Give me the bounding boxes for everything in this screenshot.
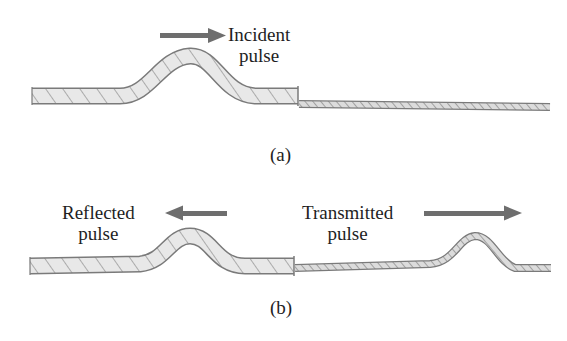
caption-b: (b) [270,298,292,318]
incident-label-line1: Incident [228,24,290,45]
transmitted-pulse-label: Transmitted pulse [302,202,393,244]
reflected-arrow-icon [165,206,227,221]
caption-a: (a) [270,145,291,165]
transmitted-label-line2: pulse [302,223,393,244]
incident-label-line2: pulse [228,45,290,66]
transmitted-label-line1: Transmitted [302,202,393,223]
thin-rope-a [299,104,550,107]
incident-arrow-icon [160,28,226,43]
reflected-label-line1: Reflected [62,202,135,223]
incident-pulse-label: Incident pulse [228,24,290,66]
reflected-label-line2: pulse [62,223,135,244]
panel-a [32,28,550,107]
transmitted-arrow-icon [424,206,522,221]
reflected-pulse-label: Reflected pulse [62,202,135,244]
